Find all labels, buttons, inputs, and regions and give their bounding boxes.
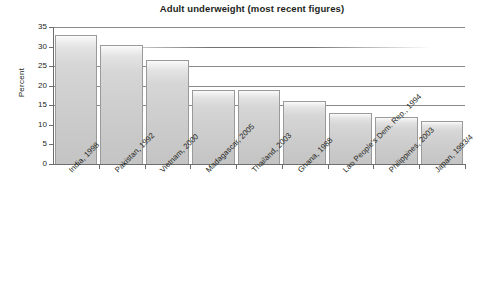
x-axis-tick <box>328 165 329 169</box>
y-axis-tick <box>49 105 54 106</box>
x-axis-tick <box>465 165 466 169</box>
y-axis-title: Percent <box>17 53 26 113</box>
bar <box>146 60 189 164</box>
plot-area <box>53 27 465 164</box>
chart-title: Adult underweight (most recent figures) <box>0 3 504 14</box>
bar <box>283 101 326 164</box>
x-axis-tick <box>190 165 191 169</box>
bar <box>55 35 98 164</box>
x-axis-line <box>53 164 466 165</box>
bar <box>100 45 143 164</box>
bar <box>375 117 418 164</box>
x-axis-tick <box>373 165 374 169</box>
x-axis-tick <box>145 165 146 169</box>
x-axis-tick <box>236 165 237 169</box>
gridline <box>53 27 465 28</box>
y-axis-tick <box>49 66 54 67</box>
chart-container: Adult underweight (most recent figures) … <box>0 0 504 286</box>
y-axis-tick <box>49 86 54 87</box>
x-axis-tick <box>99 165 100 169</box>
y-axis-tick <box>49 47 54 48</box>
y-axis-tick-label: 30 <box>3 42 47 51</box>
y-axis-tick-label: 5 <box>3 139 47 148</box>
y-axis-tick-labels: 05101520253035 <box>0 0 47 286</box>
y-axis-tick <box>49 144 54 145</box>
y-axis-tick <box>49 125 54 126</box>
bar <box>192 90 235 164</box>
y-axis-tick-label: 10 <box>3 120 47 129</box>
y-axis-tick <box>49 27 54 28</box>
x-axis-tick <box>282 165 283 169</box>
x-axis-tick <box>419 165 420 169</box>
y-axis-tick <box>49 164 54 165</box>
y-axis-tick-label: 0 <box>3 159 47 168</box>
bar <box>238 90 281 164</box>
bar <box>329 113 372 164</box>
y-axis-tick-label: 35 <box>3 22 47 31</box>
bar <box>421 121 464 164</box>
